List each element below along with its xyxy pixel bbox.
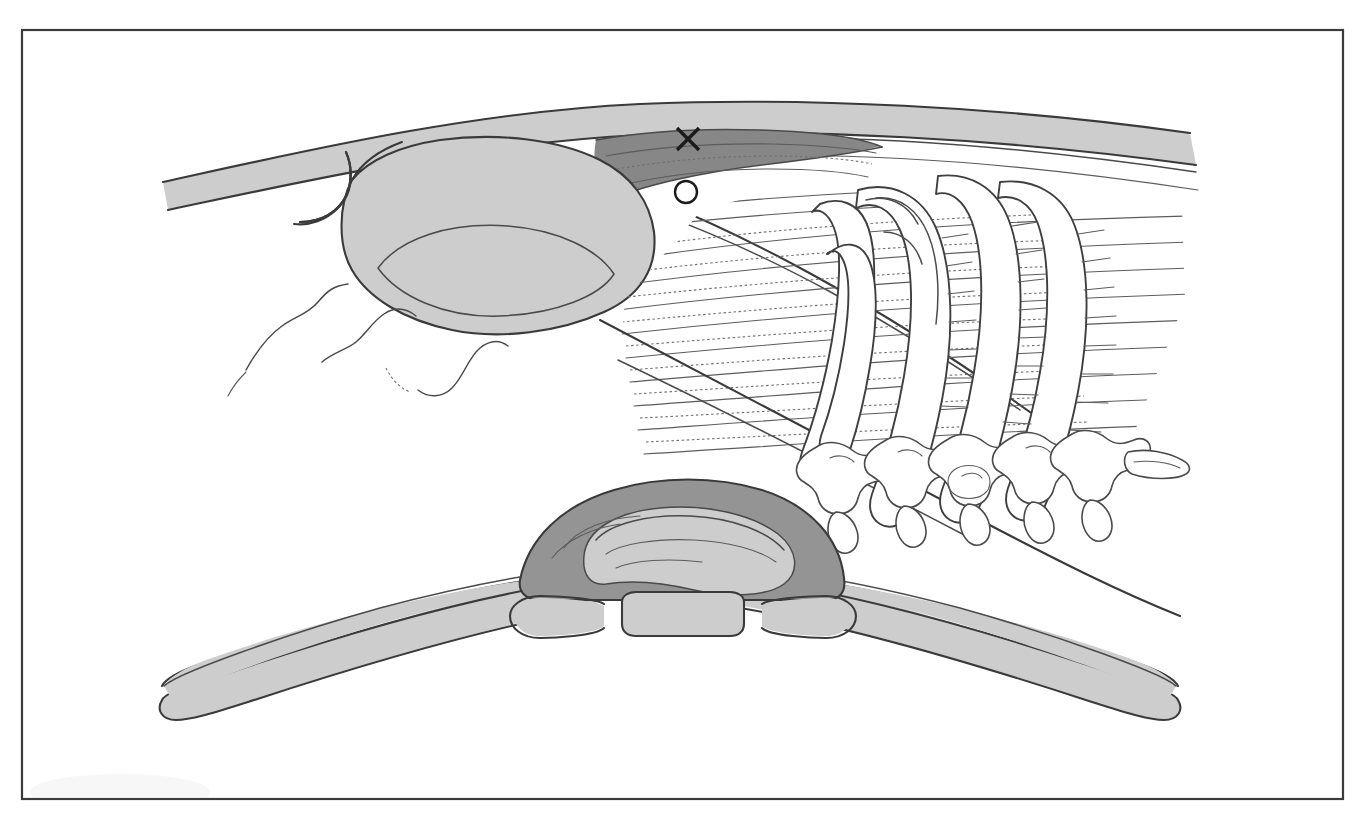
anatomy-diagram-svg: [0, 0, 1362, 822]
figure-root: [0, 0, 1362, 822]
caption-artifact: [60, 803, 480, 819]
landmark-circle-marker[interactable]: [675, 181, 697, 203]
sternal-notch-segment: [622, 592, 744, 636]
